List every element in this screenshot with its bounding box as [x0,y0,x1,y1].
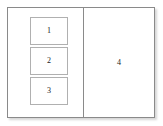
right-pane[interactable]: 4 [84,8,154,117]
region-box-3-label: 3 [47,87,51,95]
region-box-2-label: 2 [47,57,51,65]
layout-frame: 1 2 3 4 [7,7,155,118]
region-box-3[interactable]: 3 [30,77,68,105]
region-box-2[interactable]: 2 [30,47,68,75]
wireframe-canvas: 1 2 3 4 [0,0,163,126]
region-box-1[interactable]: 1 [30,17,68,45]
region-box-4-label: 4 [117,59,121,67]
left-pane: 1 2 3 [8,8,83,117]
region-box-1-label: 1 [47,27,51,35]
